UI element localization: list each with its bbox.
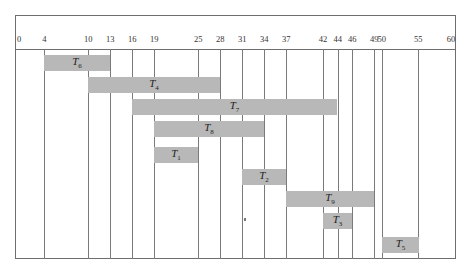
tick-label: 46 [348,34,357,44]
tick-label: 44 [333,34,342,44]
task-bar-t6: T6 [44,55,110,71]
task-label: T5 [396,237,406,252]
tick-label: 50 [377,34,386,44]
task-label: T6 [72,55,82,70]
grid-line [242,49,243,259]
tick-label: 34 [260,34,269,44]
grid-line [286,49,287,259]
task-label: T2 [259,169,269,184]
tick-label: 4 [42,34,46,44]
gantt-chart: 0410131619252831343742444649505560 T6T4T… [0,0,468,271]
task-label: T8 [204,121,214,136]
task-label: T3 [333,213,343,228]
grid-line [220,49,221,259]
tick-label: 42 [319,34,328,44]
task-bar-t5: T5 [382,237,419,253]
tick-label: 16 [128,34,137,44]
task-bar-t9: T9 [286,191,374,207]
task-label: T1 [171,147,181,162]
grid-line [264,49,265,259]
tick-label: 0 [17,34,21,44]
grid-line [374,49,375,259]
grid-line [44,49,45,259]
task-bar-t7: T7 [132,99,337,115]
tick-label: 25 [194,34,203,44]
tick-label: 60 [447,34,456,44]
tick-label: 31 [238,34,247,44]
tick-label: 10 [84,34,93,44]
task-bar-t4: T4 [88,77,220,93]
task-label: T7 [230,99,240,114]
task-label: T4 [149,77,159,92]
tick-label: 28 [216,34,225,44]
grid-line [418,49,419,259]
tick-label: 37 [282,34,291,44]
tick-label: 19 [150,34,159,44]
task-bar-t3: T3 [323,213,352,229]
task-bar-t8: T8 [154,121,264,137]
grid-line [352,49,353,259]
header-divider [15,49,456,50]
chart-frame [15,15,456,259]
task-bar-t2: T2 [242,169,286,185]
tick-label: 13 [106,34,115,44]
grid-line [382,49,383,259]
task-bar-t1: T1 [154,147,198,163]
task-label: T9 [325,191,335,206]
stray-mark [244,218,246,221]
tick-label: 55 [414,34,423,44]
